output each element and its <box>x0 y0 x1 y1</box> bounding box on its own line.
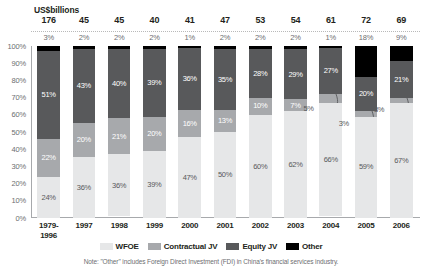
total-value: 61 <box>313 15 348 28</box>
bar-segment-cjv[interactable]: 21% <box>108 118 131 154</box>
legend-item-ejv[interactable]: Equity JV <box>226 242 277 251</box>
stacked-bar[interactable]: 39%20%39% <box>143 46 166 218</box>
total-value: 176 <box>31 15 66 28</box>
segment-value-label: 51% <box>42 91 56 99</box>
bar-segment-ejv[interactable]: 40% <box>108 49 131 118</box>
bar-segment-cjv[interactable]: 5% <box>319 94 342 103</box>
x-axis-labels: 1979-19961997199819992000200120022003200… <box>31 221 419 241</box>
stacked-bar[interactable]: 29%7%62% <box>284 46 307 218</box>
other-top-label: 2% <box>243 33 278 45</box>
x-axis-tick-label: 2001 <box>207 221 242 241</box>
bar-segment-ejv[interactable]: 21% <box>390 61 413 97</box>
x-axis-tick-label: 2000 <box>172 221 207 241</box>
total-value: 45 <box>66 15 101 28</box>
segment-value-label: 67% <box>394 157 408 165</box>
legend-item-cjv[interactable]: Contractual JV <box>148 242 218 251</box>
segment-value-label: 27% <box>324 67 338 75</box>
bar-segment-ejv[interactable]: 51% <box>37 51 60 139</box>
bar-segment-ejv[interactable]: 36% <box>178 48 201 110</box>
bar-segment-cjv[interactable]: 13% <box>214 110 237 132</box>
segment-value-label: 21% <box>112 133 126 141</box>
bar-group[interactable]: 43%20%36% <box>66 46 101 218</box>
other-top-label: 18% <box>348 33 383 45</box>
other-top-label: 2% <box>278 33 313 45</box>
segment-value-label: 24% <box>42 194 56 202</box>
segment-value-label: 39% <box>147 181 161 189</box>
legend: WFOEContractual JVEquity JVOther <box>0 242 422 251</box>
other-top-label: 2% <box>207 33 242 45</box>
stacked-bar[interactable]: 35%13%50% <box>214 46 237 218</box>
bar-segment-wfoe[interactable]: 67% <box>390 103 413 218</box>
bar-segment-wfoe[interactable]: 62% <box>284 111 307 218</box>
other-top-label: 1% <box>313 33 348 45</box>
segment-value-label: 50% <box>218 171 232 179</box>
y-axis-tick-label: 100% <box>8 42 26 51</box>
x-axis-tick-label-line: 2000 <box>172 221 207 231</box>
bar-segment-ejv[interactable]: 28% <box>249 49 272 97</box>
stacked-bar[interactable]: 20%3%59% <box>355 46 378 218</box>
stacked-bar[interactable]: 27%5%66% <box>319 46 342 218</box>
bar-segment-oth[interactable] <box>390 46 413 61</box>
bar-group[interactable]: 28%10%60% <box>243 46 278 218</box>
bar-segment-wfoe[interactable]: 59% <box>355 117 378 218</box>
legend-label: WFOE <box>116 242 139 251</box>
bar-segment-cjv[interactable]: 10% <box>249 98 272 115</box>
segment-value-label: 20% <box>359 90 373 98</box>
bar-segment-wfoe[interactable]: 36% <box>108 154 131 216</box>
plot-area: 51%22%24%43%20%36%40%21%36%39%20%39%36%1… <box>31 46 419 218</box>
stacked-bar[interactable]: 21%3%67% <box>390 46 413 218</box>
bar-group[interactable]: 20%3%59% <box>348 46 383 218</box>
bar-group[interactable]: 27%5%66% <box>313 46 348 218</box>
y-axis-tick-label: 90% <box>12 59 26 68</box>
segment-value-label: 20% <box>77 136 91 144</box>
other-top-label: 2% <box>137 33 172 45</box>
bar-segment-cjv[interactable]: 20% <box>143 117 166 151</box>
y-axis-tick-label: 70% <box>12 93 26 102</box>
bar-segment-oth[interactable] <box>355 46 378 77</box>
stacked-bar-chart: US$billions 17645454041475354617269 3%2%… <box>0 0 422 274</box>
bar-segment-wfoe[interactable]: 36% <box>73 157 96 218</box>
stacked-bar[interactable]: 36%16%47% <box>178 46 201 218</box>
bar-group[interactable]: 35%13%50% <box>207 46 242 218</box>
x-axis-tick-label-line: 2002 <box>243 221 278 231</box>
bar-segment-ejv[interactable]: 43% <box>73 49 96 122</box>
segment-value-label: 20% <box>147 130 161 138</box>
other-top-label: 9% <box>384 33 419 45</box>
bar-group[interactable]: 29%7%62% <box>278 46 313 218</box>
bar-segment-wfoe[interactable]: 60% <box>249 115 272 218</box>
total-value: 53 <box>243 15 278 28</box>
y-axis-tick-label: 20% <box>12 179 26 188</box>
segment-value-label: 47% <box>183 174 197 182</box>
x-axis-tick-label-line: 2006 <box>384 221 419 231</box>
bar-group[interactable]: 40%21%36% <box>102 46 137 218</box>
legend-item-wfoe[interactable]: WFOE <box>100 242 139 251</box>
bar-group[interactable]: 36%16%47% <box>172 46 207 218</box>
y-axis-tick-label: 0% <box>16 214 26 223</box>
bar-segment-cjv[interactable]: 20% <box>73 123 96 157</box>
x-axis-tick-label-line: 2003 <box>278 221 313 231</box>
segment-value-label: 13% <box>218 117 232 125</box>
bar-segment-wfoe[interactable]: 39% <box>143 151 166 218</box>
legend-swatch <box>100 243 113 250</box>
stacked-bar[interactable]: 40%21%36% <box>108 46 131 218</box>
segment-value-label: 21% <box>394 76 408 84</box>
bar-segment-wfoe[interactable]: 47% <box>178 137 201 218</box>
segment-value-label: 43% <box>77 82 91 90</box>
bar-segment-ejv[interactable]: 39% <box>143 49 166 116</box>
bar-segment-cjv[interactable]: 16% <box>178 110 201 138</box>
bar-segment-cjv[interactable]: 22% <box>37 139 60 177</box>
bar-segment-ejv[interactable]: 35% <box>214 49 237 109</box>
y-axis-tick-label: 40% <box>12 145 26 154</box>
bar-segment-ejv[interactable]: 27% <box>319 48 342 94</box>
stacked-bar[interactable]: 43%20%36% <box>73 46 96 218</box>
bar-segment-wfoe[interactable]: 50% <box>214 132 237 218</box>
bar-segment-wfoe[interactable]: 24% <box>37 177 60 218</box>
bar-segment-ejv[interactable]: 29% <box>284 49 307 99</box>
legend-item-oth[interactable]: Other <box>286 242 322 251</box>
stacked-bar[interactable]: 51%22%24% <box>37 46 60 218</box>
bar-group[interactable]: 21%3%67% <box>384 46 419 218</box>
stacked-bar[interactable]: 28%10%60% <box>249 46 272 218</box>
x-axis-tick-label: 1999 <box>137 221 172 241</box>
bar-group[interactable]: 51%22%24% <box>31 46 66 218</box>
bar-group[interactable]: 39%20%39% <box>137 46 172 218</box>
